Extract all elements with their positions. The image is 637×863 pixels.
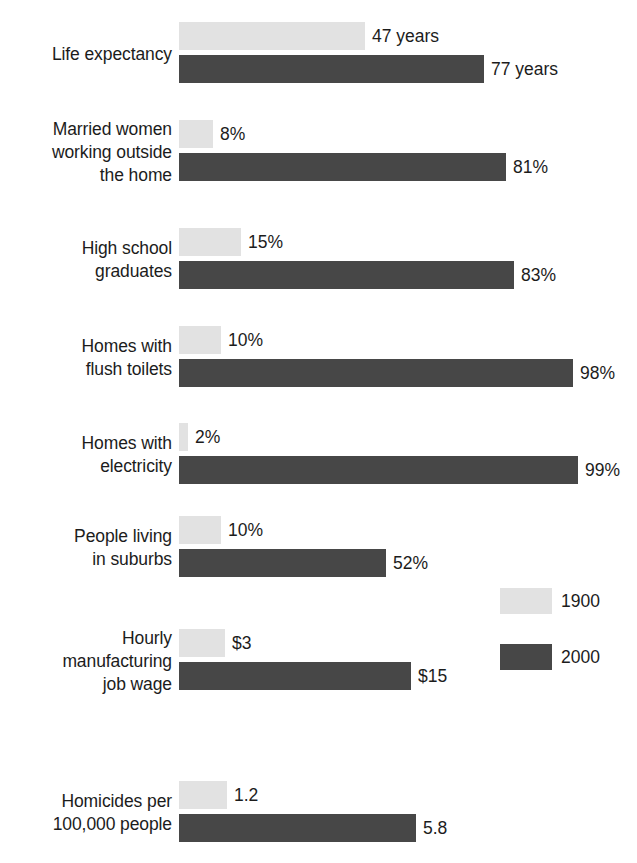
bar-2000: [179, 456, 578, 484]
bar-value-2000: 5.8: [423, 818, 447, 838]
category-label: Homicides per 100,000 people: [0, 790, 172, 836]
bar-row-1900: 8%: [179, 120, 548, 148]
bar-1900: [179, 423, 188, 451]
bar-value-1900: 1.2: [234, 785, 258, 805]
bar-value-2000: 52%: [393, 553, 428, 573]
bar-value-1900: 47 years: [372, 26, 439, 46]
bar-value-2000: 77 years: [491, 59, 558, 79]
bar-value-1900: 10%: [228, 330, 263, 350]
comparison-bar-chart: Life expectancy 47 years 77 years Marrie…: [0, 0, 637, 863]
bar-row-2000: $15: [179, 662, 447, 690]
bar-row-1900: 2%: [179, 423, 620, 451]
bar-pair: $3 $15: [179, 629, 447, 690]
bar-1900: [179, 228, 241, 256]
category-label: Homes with electricity: [0, 432, 172, 478]
bar-value-2000: 98%: [580, 363, 615, 383]
bar-2000: [179, 359, 573, 387]
bar-value-2000: $15: [418, 666, 447, 686]
bar-pair: 8% 81%: [179, 120, 548, 181]
bar-value-1900: $3: [232, 633, 251, 653]
bar-value-1900: 15%: [248, 232, 283, 252]
category-label: Hourly manufacturing job wage: [0, 627, 172, 696]
legend-item-1900: 1900: [500, 588, 600, 614]
category-label: Homes with flush toilets: [0, 335, 172, 381]
bar-2000: [179, 55, 484, 83]
category-label: Life expectancy: [0, 43, 172, 66]
bar-row-2000: 83%: [179, 261, 556, 289]
bar-2000: [179, 549, 386, 577]
legend-swatch-icon: [500, 588, 552, 614]
legend-swatch-icon: [500, 644, 552, 670]
bar-2000: [179, 153, 506, 181]
bar-row-1900: 10%: [179, 516, 428, 544]
legend-item-2000: 2000: [500, 644, 600, 670]
category-label: Married women working outside the home: [0, 118, 172, 187]
bar-2000: [179, 261, 514, 289]
bar-value-1900: 2%: [195, 427, 220, 447]
bar-1900: [179, 781, 227, 809]
bar-pair: 1.2 5.8: [179, 781, 447, 842]
bar-row-1900: 15%: [179, 228, 556, 256]
bar-1900: [179, 629, 225, 657]
bar-value-2000: 99%: [585, 460, 620, 480]
bar-1900: [179, 22, 365, 50]
bar-row-2000: 99%: [179, 456, 620, 484]
bar-row-2000: 81%: [179, 153, 548, 181]
bar-2000: [179, 814, 416, 842]
bar-row-2000: 5.8: [179, 814, 447, 842]
category-label: People living in suburbs: [0, 525, 172, 571]
bar-row-2000: 98%: [179, 359, 615, 387]
bar-pair: 47 years 77 years: [179, 22, 558, 83]
bar-pair: 10% 98%: [179, 326, 615, 387]
bar-1900: [179, 326, 221, 354]
chart-legend: 1900 2000: [500, 588, 600, 670]
bar-1900: [179, 516, 221, 544]
bar-row-1900: 47 years: [179, 22, 558, 50]
bar-1900: [179, 120, 213, 148]
bar-pair: 15% 83%: [179, 228, 556, 289]
bar-row-1900: $3: [179, 629, 447, 657]
legend-label: 1900: [561, 591, 600, 611]
bar-pair: 10% 52%: [179, 516, 428, 577]
bar-pair: 2% 99%: [179, 423, 620, 484]
bar-value-1900: 10%: [228, 520, 263, 540]
bar-row-1900: 1.2: [179, 781, 447, 809]
bar-value-1900: 8%: [220, 124, 245, 144]
bar-2000: [179, 662, 411, 690]
bar-row-2000: 77 years: [179, 55, 558, 83]
bar-value-2000: 83%: [521, 265, 556, 285]
legend-label: 2000: [561, 647, 600, 667]
bar-row-1900: 10%: [179, 326, 615, 354]
bar-row-2000: 52%: [179, 549, 428, 577]
bar-value-2000: 81%: [513, 157, 548, 177]
category-label: High school graduates: [0, 237, 172, 283]
